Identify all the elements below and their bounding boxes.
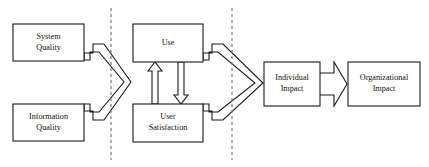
node-information-quality-label-line1: Information xyxy=(29,112,68,121)
node-system-quality-label-line1: System xyxy=(36,32,61,41)
connector-satisfaction-to-use-arrow-up xyxy=(148,62,162,104)
is-success-model-diagram: System Quality Information Quality Use U… xyxy=(0,0,429,167)
node-organizational-impact-label-line1: Organizational xyxy=(360,73,409,82)
node-individual-impact[interactable]: Individual Impact xyxy=(264,62,320,106)
node-individual-impact-label-line1: Individual xyxy=(275,73,309,82)
node-individual-impact-label-line2: Impact xyxy=(281,84,304,93)
node-use[interactable]: Use xyxy=(133,24,203,62)
diagram-canvas: System Quality Information Quality Use U… xyxy=(0,0,429,167)
node-system-quality-label-line2: Quality xyxy=(36,43,61,52)
node-information-quality-label-line2: Quality xyxy=(36,123,61,132)
node-user-satisfaction[interactable]: User Satisfaction xyxy=(133,104,203,142)
connector-quality-to-usage xyxy=(84,44,131,120)
connector-individual-to-organizational-arrow xyxy=(320,62,347,106)
node-organizational-impact[interactable]: Organizational Impact xyxy=(348,62,420,106)
node-use-label-line1: Use xyxy=(162,38,175,47)
node-user-satisfaction-label-line2: Satisfaction xyxy=(149,123,188,132)
node-organizational-impact-label-line2: Impact xyxy=(373,84,396,93)
connector-use-to-satisfaction-arrow-down xyxy=(174,62,188,104)
node-user-satisfaction-label-line1: User xyxy=(160,112,176,121)
node-information-quality[interactable]: Information Quality xyxy=(13,104,84,141)
connector-usage-to-individual-impact xyxy=(203,44,263,120)
node-system-quality[interactable]: System Quality xyxy=(13,24,84,61)
